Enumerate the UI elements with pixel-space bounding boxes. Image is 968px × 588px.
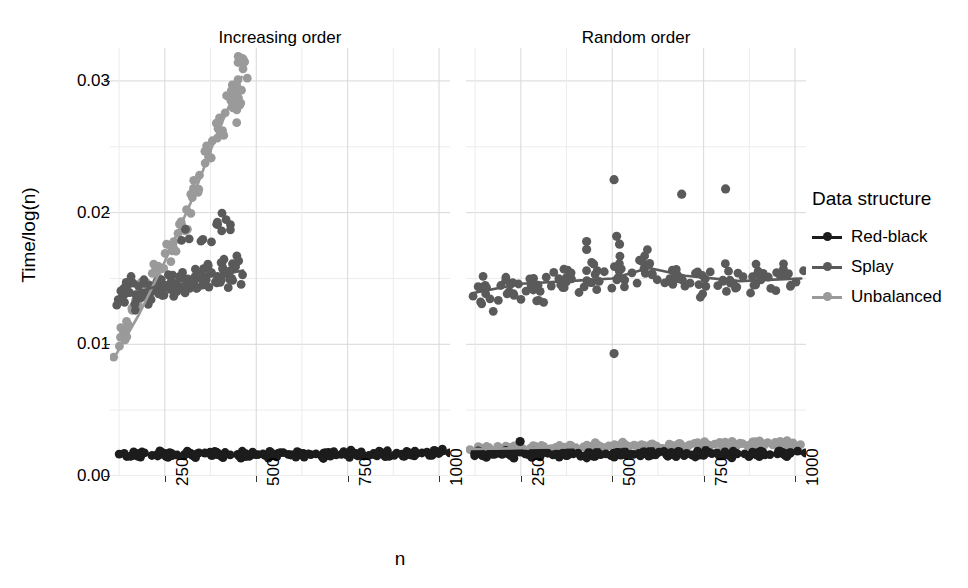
- legend-item-label: Unbalanced: [851, 287, 942, 307]
- x-tick-mark: [439, 476, 440, 482]
- data-point: [494, 296, 503, 305]
- x-axis-title: n: [0, 548, 800, 570]
- data-point: [239, 55, 248, 64]
- data-point: [166, 257, 175, 266]
- data-point: [732, 283, 741, 292]
- data-point: [668, 280, 677, 289]
- data-point: [243, 74, 252, 83]
- x-tick-label: 750: [356, 458, 376, 486]
- data-point: [213, 218, 222, 227]
- legend-item-unbalanced[interactable]: Unbalanced: [812, 282, 962, 312]
- x-tick-label: 500: [620, 458, 640, 486]
- data-point: [722, 287, 731, 296]
- data-point: [222, 215, 231, 224]
- x-tick-mark: [165, 476, 166, 482]
- x-tick-mark: [348, 476, 349, 482]
- y-axis-title-text: Time/log(n): [18, 187, 40, 282]
- data-point: [701, 282, 710, 291]
- data-point: [186, 281, 195, 290]
- data-point-outlier: [582, 245, 591, 254]
- legend-item-label: Red-black: [851, 227, 928, 247]
- data-point: [216, 278, 225, 287]
- x-tick-label: 500: [264, 458, 284, 486]
- data-point-outlier: [721, 184, 730, 193]
- x-tick-mark: [521, 476, 522, 482]
- data-point-outlier: [609, 175, 618, 184]
- x-axis-title-text: n: [395, 548, 406, 569]
- data-point: [168, 271, 177, 280]
- legend-key-icon: [812, 227, 842, 247]
- data-point: [181, 289, 190, 298]
- data-point: [607, 284, 616, 293]
- data-point: [746, 289, 755, 298]
- data-point: [686, 279, 695, 288]
- data-point: [616, 252, 625, 261]
- data-point: [486, 294, 495, 303]
- data-point-outlier: [612, 232, 621, 241]
- data-point: [230, 260, 239, 269]
- x-tick-mark: [704, 476, 705, 482]
- data-point-outlier: [516, 437, 525, 446]
- data-point-outlier: [615, 240, 624, 249]
- x-tick-label: 250: [173, 458, 193, 486]
- data-point: [615, 267, 624, 276]
- data-point: [510, 291, 519, 300]
- x-tick-label: 750: [712, 458, 732, 486]
- legend-item-splay[interactable]: Splay: [812, 252, 962, 282]
- y-axis-ticks: 0.000.010.020.03: [48, 0, 110, 588]
- data-point-outlier: [609, 349, 618, 358]
- data-point: [560, 283, 569, 292]
- data-point-outlier: [677, 190, 686, 199]
- plot-panel-random-order: [466, 48, 806, 476]
- data-point: [706, 268, 715, 277]
- smooth-line-red-black: [117, 453, 445, 454]
- data-point: [224, 283, 233, 292]
- data-point: [134, 282, 143, 291]
- data-point: [633, 279, 642, 288]
- data-point: [479, 272, 488, 281]
- data-point: [771, 286, 780, 295]
- legend-key-icon: [812, 257, 842, 277]
- facet-strip-increasing-order: Increasing order: [110, 28, 450, 48]
- panel-background: [110, 48, 450, 476]
- data-point: [567, 268, 576, 277]
- plot-panel-increasing-order: [110, 48, 450, 476]
- data-point: [217, 227, 226, 236]
- data-point: [130, 300, 139, 309]
- data-point: [779, 259, 788, 268]
- data-point: [752, 260, 761, 269]
- data-point: [643, 245, 652, 254]
- legend-items: Red-blackSplayUnbalanced: [812, 222, 962, 312]
- data-point: [276, 448, 285, 457]
- legend-item-red-black[interactable]: Red-black: [812, 222, 962, 252]
- data-point: [232, 118, 241, 127]
- data-point: [539, 298, 548, 307]
- data-point: [724, 267, 733, 276]
- data-point: [185, 235, 194, 244]
- data-point: [177, 236, 186, 245]
- legend: Data structure Red-blackSplayUnbalanced: [812, 188, 962, 312]
- x-tick-label: 1000: [803, 448, 823, 486]
- data-point: [203, 260, 212, 269]
- data-point: [696, 293, 705, 302]
- legend-title: Data structure: [812, 188, 962, 210]
- data-point: [489, 307, 498, 316]
- data-point: [197, 237, 206, 246]
- data-point: [477, 299, 486, 308]
- data-point: [591, 270, 600, 279]
- data-point: [122, 278, 131, 287]
- x-tick-label: 1000: [447, 448, 467, 486]
- x-tick-mark: [795, 476, 796, 482]
- panel-canvas: [110, 48, 450, 476]
- legend-item-label: Splay: [851, 257, 894, 277]
- data-point: [780, 450, 789, 459]
- y-tick-mark: [104, 476, 110, 477]
- data-point: [699, 451, 708, 460]
- legend-key-icon: [812, 287, 842, 307]
- data-point: [542, 273, 551, 282]
- facet-strip-random-order: Random order: [466, 28, 806, 48]
- smooth-line-red-black: [473, 453, 801, 454]
- y-axis-title: Time/log(n): [14, 0, 44, 470]
- x-tick-label: 250: [529, 458, 549, 486]
- x-tick-mark: [256, 476, 257, 482]
